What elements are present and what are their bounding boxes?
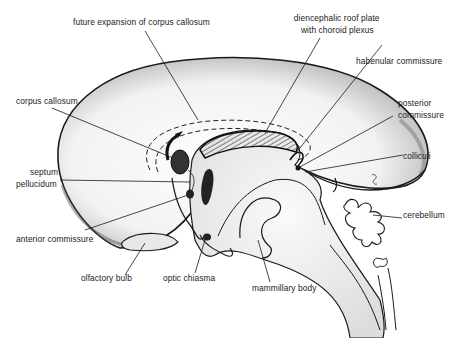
label-habenular-commissure: habenular commissure xyxy=(356,55,442,66)
label-posterior-commissure-line2: commissure xyxy=(398,109,444,120)
label-posterior-commissure-line1: posterior xyxy=(398,97,431,108)
label-mammillary-body: mammillary body xyxy=(252,282,317,293)
label-future-expansion: future expansion of corpus callosum xyxy=(73,16,210,27)
label-anterior-commissure: anterior commissure xyxy=(16,233,93,244)
brain-illustration xyxy=(0,0,461,338)
label-septum-line2: pellucidum xyxy=(16,178,57,189)
label-olfactory-bulb: olfactory bulb xyxy=(81,272,132,283)
label-optic-chiasma: optic chiasma xyxy=(163,272,215,283)
label-diencephalic-roof-line2: with choroid plexus xyxy=(301,24,374,35)
label-colliculi: colliculi xyxy=(403,150,431,161)
brain-diagram: future expansion of corpus callosum dien… xyxy=(0,0,461,338)
anterior-commissure-section xyxy=(186,190,194,199)
label-septum-line1: septum xyxy=(30,166,58,177)
optic-chiasma-section xyxy=(203,234,211,241)
cerebellum-shape xyxy=(344,199,385,246)
label-cerebellum: cerebellum xyxy=(403,209,445,220)
label-corpus-callosum: corpus callosum xyxy=(16,95,78,106)
label-diencephalic-roof-line1: diencephalic roof plate xyxy=(294,12,380,23)
corpus-callosum-section xyxy=(171,150,189,174)
